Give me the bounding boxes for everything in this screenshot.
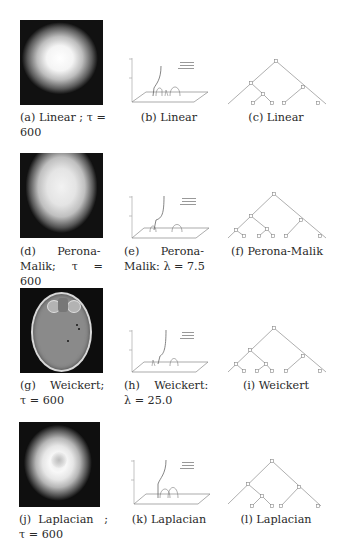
caption-f: (f) Perona-Malik [222, 244, 332, 259]
linear-scale-tree [226, 56, 326, 108]
linear-diffusion-image [20, 20, 103, 105]
caption-a-line1: (a) Linear ; τ = [20, 110, 120, 125]
caption-e-line1: (e) Perona- [124, 244, 206, 259]
caption-d: (d) Perona- Malik; τ = 600 [20, 244, 103, 289]
caption-d-line2: Malik; τ = 600 [20, 259, 103, 289]
perona-malik-image [20, 153, 103, 238]
caption-c: (c) Linear [226, 110, 326, 125]
caption-j-line1: (j) Laplacian ; [19, 512, 102, 527]
laplacian-scale-tree [226, 458, 326, 510]
caption-i-line1: (i) Weickert [226, 378, 326, 393]
caption-e-line2: Malik: λ = 7.5 [124, 259, 206, 274]
caption-g: (g) Weickert; τ = 600 [20, 378, 103, 408]
caption-h-line2: λ = 25.0 [124, 393, 206, 408]
caption-b: (b) Linear [124, 110, 214, 125]
caption-k-line1: (k) Laplacian [124, 512, 214, 527]
caption-g-line2: τ = 600 [20, 393, 103, 408]
weickert-3d-plot [124, 328, 214, 376]
linear-3d-plot [124, 56, 214, 108]
caption-a: (a) Linear ; τ = 600 [20, 110, 120, 140]
caption-j-line2: τ = 600 [19, 527, 102, 542]
caption-k: (k) Laplacian [124, 512, 214, 527]
caption-l: (l) Laplacian [226, 512, 326, 527]
caption-i: (i) Weickert [226, 378, 326, 393]
caption-f-line1: (f) Perona-Malik [222, 244, 332, 259]
perona-malik-scale-tree [226, 190, 326, 242]
caption-e: (e) Perona- Malik: λ = 7.5 [124, 244, 206, 274]
weickert-image [20, 288, 103, 373]
caption-l-line1: (l) Laplacian [226, 512, 326, 527]
caption-c-line1: (c) Linear [226, 110, 326, 125]
caption-b-line1: (b) Linear [124, 110, 214, 125]
caption-d-line1: (d) Perona- [20, 244, 103, 259]
weickert-scale-tree [226, 324, 326, 376]
caption-a-line2: 600 [20, 125, 120, 140]
perona-malik-3d-plot [124, 194, 214, 242]
caption-h: (h) Weickert: λ = 25.0 [124, 378, 206, 408]
laplacian-3d-plot [124, 458, 214, 508]
caption-g-line1: (g) Weickert; [20, 378, 103, 393]
laplacian-image [19, 422, 100, 507]
caption-h-line1: (h) Weickert: [124, 378, 206, 393]
caption-j: (j) Laplacian ; τ = 600 [19, 512, 102, 542]
